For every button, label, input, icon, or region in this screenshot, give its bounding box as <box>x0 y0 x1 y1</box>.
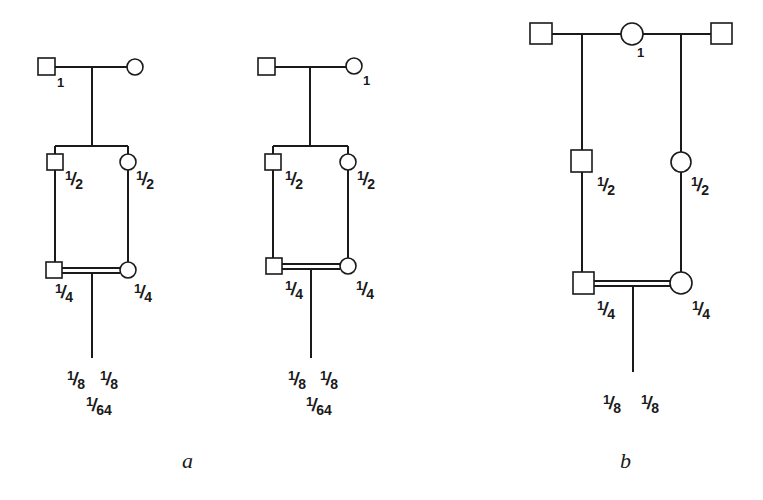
panel-caption-b: b <box>620 448 631 474</box>
male-symbol <box>258 58 275 75</box>
male-symbol <box>711 23 732 44</box>
male-symbol <box>530 23 552 44</box>
offspring-coefficient-label: 1/8 <box>641 394 659 412</box>
coefficient-label: 1/2 <box>357 170 375 188</box>
inbreeding-coefficient-label: 1/64 <box>306 396 332 414</box>
female-symbol <box>346 58 362 74</box>
female-symbol <box>340 258 356 274</box>
offspring-coefficient-label: 1/8 <box>67 370 85 388</box>
male-symbol <box>38 58 55 75</box>
female-symbol <box>120 154 136 170</box>
ancestor-coefficient-label: 1 <box>363 73 370 88</box>
coefficient-label: 1/4 <box>134 283 152 301</box>
coefficient-label: 1/2 <box>597 176 615 194</box>
coefficient-label: 1/4 <box>285 280 303 298</box>
offspring-coefficient-label: 1/8 <box>100 370 118 388</box>
ancestor-coefficient-label: 1 <box>57 75 64 90</box>
common-ancestor-female-symbol <box>621 23 643 45</box>
coefficient-label: 1/2 <box>136 170 154 188</box>
panel-caption-a: a <box>182 448 193 474</box>
male-symbol <box>571 150 592 172</box>
coefficient-label: 1/4 <box>356 280 374 298</box>
female-symbol <box>340 154 356 170</box>
pedigree-a1 <box>38 58 143 358</box>
coefficient-label: 1/4 <box>55 283 73 301</box>
ancestor-coefficient-label: 1 <box>637 45 644 60</box>
male-symbol <box>47 154 63 170</box>
coefficient-label: 1/2 <box>285 170 303 188</box>
offspring-coefficient-label: 1/8 <box>288 370 306 388</box>
coefficient-label: 1/4 <box>597 300 615 318</box>
female-symbol <box>127 59 143 75</box>
male-symbol <box>266 258 282 274</box>
coefficient-label: 1/2 <box>65 170 83 188</box>
male-symbol <box>265 154 281 170</box>
pedigree-a2 <box>258 58 362 358</box>
female-symbol <box>670 272 692 294</box>
pedigree-diagram <box>0 0 763 500</box>
female-symbol <box>671 152 691 172</box>
inbreeding-coefficient-label: 1/64 <box>86 396 112 414</box>
coefficient-label: 1/2 <box>691 176 709 194</box>
male-symbol <box>46 262 62 278</box>
female-symbol <box>120 262 136 278</box>
offspring-coefficient-label: 1/8 <box>603 394 621 412</box>
male-symbol <box>573 272 594 294</box>
offspring-coefficient-label: 1/8 <box>320 370 338 388</box>
coefficient-label: 1/4 <box>692 300 710 318</box>
